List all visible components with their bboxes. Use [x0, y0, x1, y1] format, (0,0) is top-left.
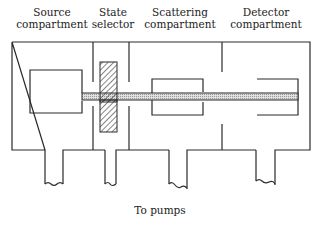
state-selector-block — [100, 62, 117, 102]
pump-tube-end-4 — [256, 180, 275, 185]
to-pumps-label: To pumps — [110, 204, 210, 216]
source-oven — [30, 70, 82, 113]
state-selector-block-lower — [100, 100, 117, 132]
pump-tube-end-1 — [45, 183, 63, 186]
apparatus-diagram — [0, 0, 320, 225]
pump-tube-end-3 — [169, 183, 187, 188]
pump-tube-end-2 — [105, 183, 116, 186]
